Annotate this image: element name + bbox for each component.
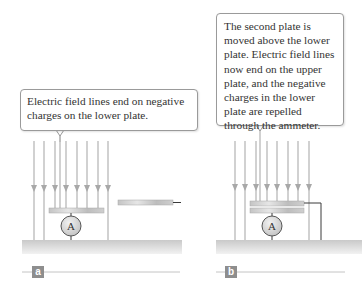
ground-surface-a bbox=[22, 240, 182, 254]
lower-plate-b bbox=[250, 208, 304, 213]
arrowheads-b bbox=[232, 184, 312, 191]
plate-wire-b bbox=[304, 203, 321, 240]
callout-panel-a: Electric field lines end on negative cha… bbox=[20, 89, 198, 131]
callout-text-a: Electric field lines end on negative cha… bbox=[27, 95, 184, 121]
upper-plate-a bbox=[118, 200, 173, 205]
ammeter-b: A bbox=[262, 216, 282, 236]
lower-plate-a bbox=[49, 208, 104, 213]
panel-a: A bbox=[22, 131, 182, 272]
panel-label-a: a bbox=[32, 266, 44, 278]
ammeter-symbol-a: A bbox=[67, 220, 75, 232]
panel-b: A bbox=[216, 126, 362, 272]
ammeter-symbol-b: A bbox=[268, 220, 276, 232]
arrowheads-a bbox=[31, 185, 111, 192]
ammeter-a: A bbox=[61, 216, 81, 236]
ground-surface-b bbox=[216, 240, 362, 254]
callout-panel-b: The second plate is moved above the lowe… bbox=[216, 13, 344, 126]
upper-plate-b bbox=[250, 201, 304, 206]
callout-pointer-a bbox=[56, 130, 64, 142]
panel-label-b: b bbox=[225, 266, 237, 278]
callout-text-b: The second plate is moved above the lowe… bbox=[224, 20, 334, 131]
